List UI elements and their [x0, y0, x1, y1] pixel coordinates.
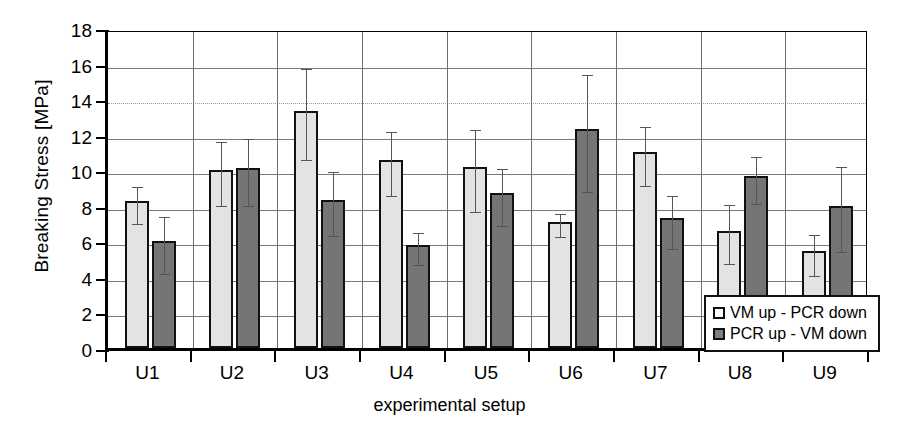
error-bar-cap	[667, 249, 678, 250]
error-bar-cap	[724, 264, 735, 265]
error-bar-cap	[243, 206, 254, 207]
error-bar-cap	[470, 130, 481, 131]
error-bar-cap	[582, 192, 593, 193]
error-bar	[248, 139, 249, 207]
error-bar-cap	[497, 226, 508, 227]
error-bar	[221, 142, 222, 206]
error-bar-cap	[301, 69, 312, 70]
error-bar-cap	[159, 274, 170, 275]
error-bar	[306, 69, 307, 160]
error-bar	[502, 169, 503, 226]
error-bar	[475, 130, 476, 212]
x-tick-label: U9	[790, 362, 860, 384]
error-bar	[418, 233, 419, 265]
x-tick-mark	[274, 351, 276, 362]
error-bar-cap	[640, 127, 651, 128]
error-bar-cap	[470, 212, 481, 213]
x-tick-mark	[867, 351, 869, 362]
dark-swatch-icon	[713, 328, 725, 340]
x-tick-label: U2	[197, 362, 267, 384]
x-tick-label: U1	[112, 362, 182, 384]
x-tick-label: U8	[705, 362, 775, 384]
error-bar	[587, 75, 588, 192]
bar-group	[531, 32, 616, 348]
x-tick-label: U7	[620, 362, 690, 384]
x-tick-mark	[613, 351, 615, 362]
x-tick-label: U5	[451, 362, 521, 384]
error-bar-cap	[836, 167, 847, 168]
error-bar-cap	[159, 217, 170, 218]
x-tick-mark	[528, 351, 530, 362]
bar-group	[362, 32, 447, 348]
y-tick-label: 0	[46, 340, 92, 362]
error-bar	[756, 157, 757, 203]
x-tick-mark	[359, 351, 361, 362]
error-bar-cap	[751, 157, 762, 158]
bar-group	[616, 32, 701, 348]
y-tick-label: 18	[46, 20, 92, 42]
y-tick-label: 12	[46, 127, 92, 149]
error-bar-cap	[582, 75, 593, 76]
error-bar-cap	[216, 142, 227, 143]
error-bar-cap	[640, 186, 651, 187]
error-bar	[645, 127, 646, 186]
legend-label: PCR up - VM down	[730, 325, 867, 343]
x-axis-title: experimental setup	[0, 395, 899, 416]
x-tick-label: U4	[366, 362, 436, 384]
chart-legend: VM up - PCR down PCR up - VM down	[704, 295, 880, 352]
x-tick-mark	[105, 351, 107, 362]
y-tick-label: 10	[46, 162, 92, 184]
bar-group	[193, 32, 278, 348]
legend-item: VM up - PCR down	[713, 302, 871, 323]
error-bar-cap	[555, 214, 566, 215]
error-bar-cap	[751, 204, 762, 205]
y-tick-label: 8	[46, 198, 92, 220]
error-bar-cap	[497, 169, 508, 170]
error-bar	[137, 187, 138, 224]
bar-group	[277, 32, 362, 348]
x-tick-label: U6	[536, 362, 606, 384]
error-bar-cap	[413, 265, 424, 266]
legend-label: VM up - PCR down	[730, 304, 867, 322]
y-tick-label: 14	[46, 91, 92, 113]
error-bar-cap	[216, 206, 227, 207]
error-bar-cap	[328, 236, 339, 237]
error-bar-cap	[667, 196, 678, 197]
error-bar-cap	[301, 160, 312, 161]
error-bar	[391, 132, 392, 196]
legend-item: PCR up - VM down	[713, 323, 871, 344]
error-bar	[672, 196, 673, 249]
bar-group	[447, 32, 532, 348]
error-bar-cap	[386, 196, 397, 197]
error-bar	[841, 167, 842, 252]
light-swatch-icon	[713, 307, 725, 319]
bar-chart-figure: Breaking Stress [MPa] experimental setup…	[0, 0, 899, 429]
error-bar-cap	[555, 237, 566, 238]
error-bar-cap	[328, 172, 339, 173]
bar-group	[108, 32, 193, 348]
bar[interactable]	[548, 222, 572, 348]
error-bar-cap	[386, 132, 397, 133]
error-bar-cap	[809, 276, 820, 277]
x-tick-mark	[190, 351, 192, 362]
error-bar-cap	[809, 235, 820, 236]
error-bar	[729, 205, 730, 264]
x-tick-mark	[782, 351, 784, 362]
y-tick-label: 2	[46, 304, 92, 326]
error-bar-cap	[243, 139, 254, 140]
y-tick-label: 16	[46, 56, 92, 78]
error-bar	[560, 214, 561, 237]
y-tick-label: 6	[46, 233, 92, 255]
error-bar-cap	[132, 187, 143, 188]
error-bar-cap	[836, 252, 847, 253]
error-bar	[814, 235, 815, 276]
error-bar-cap	[132, 224, 143, 225]
x-tick-mark	[444, 351, 446, 362]
x-tick-label: U3	[282, 362, 352, 384]
x-tick-mark	[698, 351, 700, 362]
error-bar	[333, 172, 334, 236]
error-bar-cap	[413, 233, 424, 234]
error-bar	[164, 217, 165, 274]
y-tick-label: 4	[46, 269, 92, 291]
error-bar-cap	[724, 205, 735, 206]
